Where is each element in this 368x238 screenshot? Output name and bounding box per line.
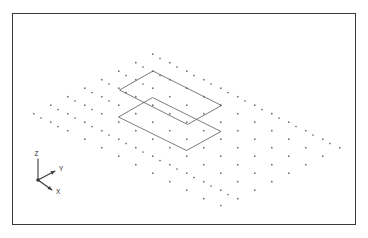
lattice-point — [152, 87, 154, 89]
lattice-point — [152, 53, 154, 55]
lattice-point — [288, 121, 290, 123]
lattice-point — [135, 96, 137, 98]
lattice-point — [220, 87, 222, 89]
lattice-point — [220, 138, 222, 140]
lattice-point — [220, 172, 222, 174]
lattice-point-cloud — [33, 53, 341, 206]
lattice-point — [271, 113, 273, 115]
upper-plate[interactable] — [120, 71, 222, 125]
lattice-point — [237, 113, 239, 115]
lattice-point — [169, 62, 171, 64]
lattice-point — [305, 130, 307, 132]
lattice-point — [118, 104, 120, 106]
lattice-point — [237, 164, 239, 166]
lattice-point — [152, 138, 154, 140]
x-axis-label: X — [56, 188, 61, 195]
y-axis-label: Y — [59, 165, 64, 172]
lattice-point — [67, 96, 69, 98]
lattice-point — [169, 96, 171, 98]
lattice-point — [193, 75, 195, 77]
lattice-point — [152, 121, 154, 123]
lattice-point — [271, 181, 273, 183]
lattice-point — [220, 155, 222, 157]
lattice-point — [84, 138, 86, 140]
lattice-point — [101, 147, 103, 149]
lattice-point — [203, 198, 205, 200]
lattice-point — [176, 66, 178, 68]
lattice-point — [220, 121, 222, 123]
lattice-point — [57, 126, 59, 128]
lattice-point — [57, 109, 59, 111]
lattice-point — [84, 87, 86, 89]
lattice-point — [176, 168, 178, 170]
lattice-point — [50, 104, 52, 106]
lattice-point — [322, 138, 324, 140]
lattice-point — [237, 198, 239, 200]
lattice-point — [135, 113, 137, 115]
lattice-point — [84, 104, 86, 106]
lattice-point — [108, 83, 110, 85]
lattice-point — [288, 138, 290, 140]
lattice-point — [67, 113, 69, 115]
lattice-point — [186, 155, 188, 157]
lattice-point — [135, 130, 137, 132]
lattice-point — [118, 155, 120, 157]
lattice-point — [288, 155, 290, 157]
lattice-point — [203, 147, 205, 149]
lattice-point — [254, 172, 256, 174]
lattice-point — [203, 164, 205, 166]
lattice-point — [237, 181, 239, 183]
lattice-point — [254, 155, 256, 157]
lattice-point — [169, 164, 171, 166]
plate-group — [119, 71, 222, 151]
lattice-point — [33, 113, 35, 115]
lattice-point — [227, 194, 229, 196]
lattice-point — [254, 121, 256, 123]
lattice-point — [254, 104, 256, 106]
figure-viewport: ZYX — [0, 0, 368, 238]
lattice-point — [186, 104, 188, 106]
lattice-point — [271, 147, 273, 149]
lattice-point — [271, 130, 273, 132]
lattice-point — [254, 189, 256, 191]
lattice-point — [261, 109, 263, 111]
lattice-point — [186, 70, 188, 72]
lattice-point — [186, 121, 188, 123]
lattice-point — [244, 100, 246, 102]
lattice-point — [305, 164, 307, 166]
lattice-point — [305, 147, 307, 149]
lattice-point — [254, 138, 256, 140]
lattice-point — [40, 117, 42, 119]
lattice-point — [203, 181, 205, 183]
scene-canvas: ZYX — [0, 0, 368, 238]
lattice-point — [169, 147, 171, 149]
lattice-point — [135, 164, 137, 166]
lattice-point — [67, 130, 69, 132]
lattice-point — [278, 117, 280, 119]
lattice-point — [101, 130, 103, 132]
lattice-point — [339, 147, 341, 149]
lattice-point — [91, 109, 93, 111]
lattice-point — [101, 96, 103, 98]
lattice-point — [271, 164, 273, 166]
coordinate-axes-triad: ZYX — [35, 150, 65, 195]
lattice-point — [322, 155, 324, 157]
lattice-point — [220, 205, 222, 207]
lattice-point — [237, 147, 239, 149]
lattice-point — [142, 66, 144, 68]
lattice-point — [91, 126, 93, 128]
lattice-point — [142, 151, 144, 153]
lower-plate[interactable] — [119, 98, 222, 151]
lattice-point — [203, 113, 205, 115]
lattice-point — [135, 147, 137, 149]
lattice-point — [193, 177, 195, 179]
lattice-point — [101, 79, 103, 81]
lattice-point — [118, 121, 120, 123]
lattice-point — [125, 75, 127, 77]
lattice-point — [237, 130, 239, 132]
lattice-point — [329, 143, 331, 145]
lattice-point — [91, 92, 93, 94]
lattice-point — [84, 121, 86, 123]
lattice-point — [108, 100, 110, 102]
lattice-point — [159, 160, 161, 162]
